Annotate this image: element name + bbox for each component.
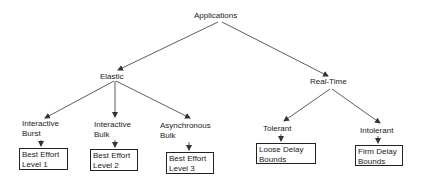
node-interactive-bulk-line2: Bulk: [94, 130, 131, 140]
edge-applications-elastic: [118, 22, 218, 70]
edge-elastic-async: [116, 81, 190, 118]
box-line2: Level 1: [22, 160, 65, 170]
box-line2: Level 3: [169, 164, 211, 174]
box-loose-delay-bounds: Loose Delay Bounds: [256, 143, 316, 164]
node-asynchronous-bulk-line2: Bulk: [160, 131, 211, 141]
node-interactive-burst-line1: Interactive: [22, 119, 59, 129]
node-asynchronous-bulk-line1: Asynchronous: [160, 121, 211, 131]
edge-realtime-tolerant: [284, 89, 330, 121]
node-interactive-burst-line2: Burst: [22, 129, 59, 139]
box-line1: Loose Delay: [259, 145, 313, 155]
node-interactive-bulk-line1: Interactive: [94, 120, 131, 130]
box-line2: Bounds: [358, 157, 400, 167]
box-line2: Bounds: [259, 155, 313, 165]
box-best-effort-level-1: Best Effort Level 1: [19, 148, 68, 170]
box-best-effort-level-3: Best Effort Level 3: [166, 152, 214, 174]
node-intolerant: Intolerant: [360, 126, 393, 136]
box-line1: Best Effort: [169, 154, 211, 164]
node-tolerant: Tolerant: [263, 124, 291, 134]
node-interactive-burst: Interactive Burst: [22, 119, 59, 139]
box-line1: Firm Delay: [358, 147, 400, 157]
box-best-effort-level-2: Best Effort Level 2: [90, 149, 138, 171]
node-elastic: Elastic: [100, 72, 124, 82]
node-applications: Applications: [194, 11, 237, 21]
edge-realtime-intolerant: [332, 89, 380, 123]
node-real-time: Real-Time: [310, 77, 347, 87]
box-line1: Best Effort: [93, 151, 135, 161]
box-firm-delay-bounds: Firm Delay Bounds: [355, 145, 403, 166]
edge-applications-realtime: [222, 22, 328, 76]
edge-elastic-burst: [45, 81, 114, 118]
box-line2: Level 2: [93, 161, 135, 171]
box-line1: Best Effort: [22, 150, 65, 160]
node-interactive-bulk: Interactive Bulk: [94, 120, 131, 140]
node-asynchronous-bulk: Asynchronous Bulk: [160, 121, 211, 141]
